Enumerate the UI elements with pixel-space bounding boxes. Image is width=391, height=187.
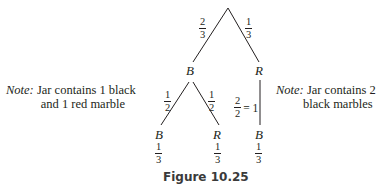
leaf-node-R: R — [213, 128, 221, 141]
fraction-numerator: 1 — [245, 17, 252, 29]
equals-one: = 1 — [243, 102, 258, 114]
note-right: Note: Jar contains 2 black marbles — [276, 83, 376, 111]
fraction-numerator: 2 — [234, 96, 241, 108]
leaf-prob-B-left: 1 3 — [155, 142, 162, 165]
fraction-numerator: 1 — [255, 142, 262, 154]
fraction-denominator: 3 — [156, 154, 161, 165]
leaf-node-B-left: B — [155, 128, 163, 141]
fraction-denominator: 2 — [165, 102, 170, 113]
note-line2: and 1 red marble — [6, 97, 136, 111]
branch-label-root-B: 2 3 — [199, 17, 206, 40]
node-B-level1: B — [186, 64, 194, 77]
fraction-numerator: 1 — [214, 142, 221, 154]
note-line1: Jar contains 2 — [307, 83, 376, 97]
fraction-numerator: 2 — [199, 17, 206, 29]
fraction-denominator: 3 — [256, 154, 261, 165]
leaf-prob-B-right: 1 3 — [255, 142, 262, 165]
leaf-prob-R: 1 3 — [214, 142, 221, 165]
leaf-node-B-right: B — [255, 128, 263, 141]
branch-root-to-R — [228, 8, 259, 62]
node-R-level1: R — [255, 64, 263, 77]
fraction-denominator: 3 — [246, 29, 251, 40]
note-keyword: Note: — [6, 83, 34, 97]
branch-label-B-B: 1 2 — [164, 90, 171, 113]
fraction-numerator: 1 — [155, 142, 162, 154]
note-keyword: Note: — [276, 83, 304, 97]
note-left: Note: Jar contains 1 black and 1 red mar… — [6, 83, 136, 111]
fraction-denominator: 2 — [235, 108, 240, 119]
note-line2: black marbles — [276, 97, 376, 111]
fraction-numerator: 1 — [164, 90, 171, 102]
branch-label-B-R: 1 2 — [208, 90, 215, 113]
branch-label-R-B: 2 2 = 1 — [234, 96, 258, 119]
fraction-denominator: 3 — [200, 29, 205, 40]
fraction-denominator: 3 — [215, 154, 220, 165]
fraction-numerator: 1 — [208, 90, 215, 102]
branch-label-root-R: 1 3 — [245, 17, 252, 40]
figure-caption: Figure 10.25 — [163, 170, 249, 184]
note-line1: Jar contains 1 black — [37, 83, 136, 97]
fraction-denominator: 2 — [209, 102, 214, 113]
